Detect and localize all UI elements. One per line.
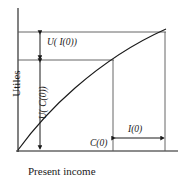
annotation-c0: C(0) [90, 139, 107, 149]
annotation-i0: I(0) [128, 125, 142, 135]
annotation-u-of-c0: U( C(0)) [39, 72, 49, 134]
y-axis-label: Utiles [11, 54, 22, 114]
utility-function-diagram: Utiles Present income U( I(0)) U( C(0)) … [0, 0, 185, 181]
diagram-canvas [0, 0, 185, 181]
x-axis-label: Present income [28, 166, 96, 177]
annotation-u-of-i0: U( I(0)) [47, 38, 77, 48]
